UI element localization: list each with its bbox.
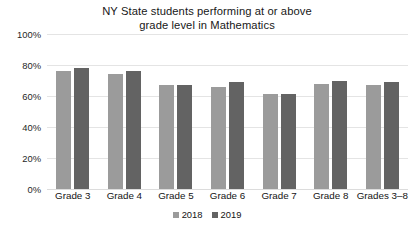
legend-item-2018[interactable]: 2018 — [173, 209, 203, 220]
plot-area: 100% 80% 60% 40% 20% 0% — [0, 34, 414, 189]
bar-2018 — [366, 85, 381, 189]
chart-title-line-2: grade level in Mathematics — [0, 18, 414, 32]
x-axis-label: Grade 8 — [305, 190, 357, 206]
x-axis-label: Grades 3–8 — [356, 190, 408, 206]
bar-group — [99, 34, 151, 189]
bar-group — [356, 34, 408, 189]
bar-2019 — [384, 82, 399, 189]
bar-2018 — [159, 85, 174, 189]
bar-2019 — [74, 68, 89, 189]
x-axis-label: Grade 4 — [99, 190, 151, 206]
y-tick-0: 0% — [27, 184, 41, 195]
chart-title-line-1: NY State students performing at or above — [0, 4, 414, 18]
bar-2019 — [126, 71, 141, 189]
legend-label-2019: 2019 — [221, 209, 242, 220]
grid-area — [47, 34, 408, 189]
legend-item-2019[interactable]: 2019 — [212, 209, 242, 220]
bar-2018 — [56, 71, 71, 189]
y-tick-60: 60% — [22, 91, 41, 102]
x-axis: Grade 3Grade 4Grade 5Grade 6Grade 7Grade… — [47, 190, 408, 206]
y-tick-80: 80% — [22, 60, 41, 71]
bar-2018 — [108, 74, 123, 189]
chart-title: NY State students performing at or above… — [0, 4, 414, 32]
bars-layer — [47, 34, 408, 189]
y-tick-40: 40% — [22, 122, 41, 133]
legend-label-2018: 2018 — [182, 209, 203, 220]
legend-swatch-2018 — [173, 212, 179, 218]
bar-group — [202, 34, 254, 189]
x-axis-label: Grade 5 — [150, 190, 202, 206]
legend-swatch-2019 — [212, 212, 218, 218]
y-tick-20: 20% — [22, 153, 41, 164]
bar-2019 — [281, 94, 296, 189]
bar-2019 — [332, 81, 347, 190]
x-axis-label: Grade 3 — [47, 190, 99, 206]
bar-2019 — [177, 85, 192, 189]
bar-2018 — [211, 87, 226, 189]
bar-group — [47, 34, 99, 189]
x-axis-label: Grade 7 — [253, 190, 305, 206]
bar-2018 — [314, 84, 329, 189]
bar-chart: NY State students performing at or above… — [0, 0, 414, 226]
bar-group — [150, 34, 202, 189]
x-axis-label: Grade 6 — [202, 190, 254, 206]
bar-2019 — [229, 82, 244, 189]
bar-2018 — [263, 94, 278, 189]
y-tick-100: 100% — [17, 29, 41, 40]
chart-legend: 20182019 — [0, 209, 414, 220]
bar-group — [305, 34, 357, 189]
y-axis: 100% 80% 60% 40% 20% 0% — [0, 34, 44, 189]
bar-group — [253, 34, 305, 189]
